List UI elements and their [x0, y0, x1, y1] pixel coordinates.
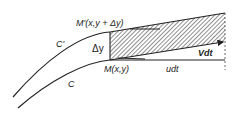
flow-diagram: M'(x,y + Δy) C' Δy Vdt M(x,y) udt C	[0, 0, 242, 124]
label-point-upper: M'(x,y + Δy)	[76, 18, 124, 28]
label-curve-lower: C	[68, 79, 75, 89]
label-delta-y: Δy	[92, 43, 104, 54]
bottom-flow-arrow	[118, 58, 145, 59]
label-udt: udt	[166, 64, 179, 74]
label-vdt: Vdt	[198, 48, 214, 58]
label-point-lower: M(x,y)	[104, 64, 129, 74]
label-curve-upper: C'	[56, 39, 64, 49]
curve-c	[18, 60, 110, 108]
